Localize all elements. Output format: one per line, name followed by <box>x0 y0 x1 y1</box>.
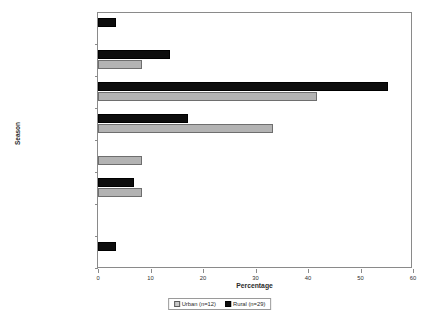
bar-urban <box>98 60 142 69</box>
bar-urban <box>98 188 142 197</box>
legend-label-urban: Urban (n=12) <box>182 301 216 307</box>
y-axis-title: Season <box>14 104 21 164</box>
bar-urban <box>98 124 273 133</box>
x-tick-label: 30 <box>241 275 271 281</box>
bar-urban <box>98 156 142 165</box>
x-tick-mark <box>413 269 414 273</box>
x-axis-title: Percentage <box>97 282 412 289</box>
bar-urban <box>98 92 317 101</box>
x-tick-mark <box>203 269 204 273</box>
chart-row: Winter <box>98 141 411 173</box>
bar-rural <box>98 178 134 187</box>
x-tick-mark <box>151 269 152 273</box>
bar-rural <box>98 114 188 123</box>
bar-rural <box>98 50 170 59</box>
seasonal-percentage-bar-chart: Season SummerLate summer/early fallFallL… <box>0 0 439 320</box>
x-tick-label: 0 <box>83 275 113 281</box>
x-tick-label: 50 <box>346 275 376 281</box>
x-tick-mark <box>256 269 257 273</box>
chart-row: Spring <box>98 205 411 237</box>
x-tick-label: 20 <box>188 275 218 281</box>
chart-row: Late spring/early summer <box>98 237 411 269</box>
chart-row: Fall <box>98 77 411 109</box>
chart-row: Summer <box>98 13 411 45</box>
chart-row: Late winter/early spring <box>98 173 411 205</box>
x-tick-mark <box>308 269 309 273</box>
bar-rural <box>98 82 388 91</box>
chart-legend: Urban (n=12) Rural (n=29) <box>168 298 272 310</box>
legend-swatch-rural-icon <box>225 301 231 307</box>
x-tick-label: 40 <box>293 275 323 281</box>
legend-item-rural: Rural (n=29) <box>225 301 265 307</box>
x-tick-mark <box>98 269 99 273</box>
legend-swatch-urban-icon <box>174 301 180 307</box>
plot-area: SummerLate summer/early fallFallLate fal… <box>97 12 412 268</box>
legend-label-rural: Rural (n=29) <box>233 301 265 307</box>
x-tick-label: 60 <box>398 275 428 281</box>
bar-rural <box>98 242 116 251</box>
legend-item-urban: Urban (n=12) <box>174 301 216 307</box>
chart-row: Late fall/early winter <box>98 109 411 141</box>
bar-rural <box>98 18 116 27</box>
x-tick-label: 10 <box>136 275 166 281</box>
chart-row: Late summer/early fall <box>98 45 411 77</box>
x-tick-mark <box>361 269 362 273</box>
